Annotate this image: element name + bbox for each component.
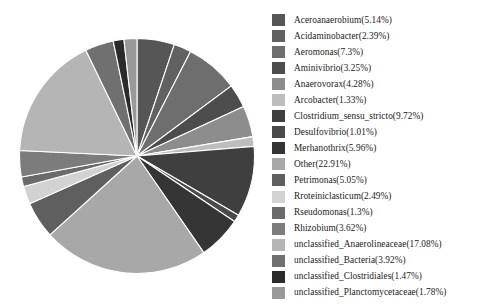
legend-item[interactable]: Rhizobium(3.62%) — [272, 221, 477, 237]
legend-color-swatch — [272, 207, 285, 219]
legend-color-swatch — [272, 191, 285, 203]
legend-color-swatch — [272, 126, 285, 138]
legend-item-label: Acidaminobacter(2.39%) — [294, 31, 389, 42]
legend-item-label: Anaerovorax(4.28%) — [294, 79, 374, 90]
legend-item[interactable]: Merhanothrix(5.96%) — [272, 140, 477, 156]
legend-color-swatch — [272, 223, 285, 235]
legend-item[interactable]: Acidaminobacter(2.39%) — [272, 28, 477, 44]
chart-legend: Aceroanaerobium(5.14%)Acidaminobacter(2.… — [272, 12, 477, 301]
legend-item[interactable]: unclassified_Anaerolineaceae(17.08%) — [272, 237, 477, 253]
legend-item[interactable]: Desulfovibrio(1.01%) — [272, 124, 477, 140]
legend-color-swatch — [272, 46, 285, 58]
legend-color-swatch — [272, 62, 285, 74]
legend-item[interactable]: Aeromonas(7.3%) — [272, 44, 477, 60]
legend-item-label: Clostridium_sensu_stricto(9.72%) — [294, 111, 423, 122]
legend-color-swatch — [272, 287, 285, 299]
legend-item[interactable]: Aceroanaerobium(5.14%) — [272, 12, 477, 28]
pie-slice-group — [19, 39, 254, 274]
legend-item[interactable]: unclassified_Planctomycetaceae(1.78%) — [272, 285, 477, 301]
legend-item-label: Aminivibrio(3.25%) — [294, 63, 371, 74]
legend-color-swatch — [272, 255, 285, 267]
legend-color-swatch — [272, 14, 285, 26]
pie-chart-plot-area — [19, 38, 255, 274]
legend-item-label: unclassified_Clostridiales(1.47%) — [294, 271, 422, 282]
legend-color-swatch — [272, 158, 285, 170]
legend-item-label: Rseudomonas(1.3%) — [294, 207, 373, 218]
legend-item[interactable]: Anaerovorax(4.28%) — [272, 76, 477, 92]
legend-item-label: Arcobacter(1.33%) — [294, 95, 366, 106]
legend-item[interactable]: Clostridium_sensu_stricto(9.72%) — [272, 108, 477, 124]
legend-color-swatch — [272, 271, 285, 283]
legend-item-label: Desulfovibrio(1.01%) — [294, 127, 377, 138]
legend-item-label: Aeromonas(7.3%) — [294, 47, 363, 58]
legend-item[interactable]: unclassified_Bacteria(3.92%) — [272, 253, 477, 269]
legend-item[interactable]: unclassified_Clostridiales(1.47%) — [272, 269, 477, 285]
legend-item-label: Aceroanaerobium(5.14%) — [294, 15, 392, 26]
legend-color-swatch — [272, 174, 285, 186]
legend-color-swatch — [272, 30, 285, 42]
legend-color-swatch — [272, 94, 285, 106]
legend-item-label: unclassified_Bacteria(3.92%) — [294, 255, 406, 266]
legend-item[interactable]: Rroteiniclasticum(2.49%) — [272, 189, 477, 205]
legend-item-label: Petrimonas(5.05%) — [294, 175, 367, 186]
legend-color-swatch — [272, 78, 285, 90]
legend-item-label: Merhanothrix(5.96%) — [294, 143, 376, 154]
legend-color-swatch — [272, 110, 285, 122]
legend-item[interactable]: Rseudomonas(1.3%) — [272, 205, 477, 221]
legend-item[interactable]: Petrimonas(5.05%) — [272, 172, 477, 188]
legend-item-label: unclassified_Planctomycetaceae(1.78%) — [294, 287, 446, 298]
legend-color-swatch — [272, 142, 285, 154]
legend-item[interactable]: Aminivibrio(3.25%) — [272, 60, 477, 76]
legend-item-label: Other(22.91%) — [294, 159, 351, 170]
legend-item[interactable]: Arcobacter(1.33%) — [272, 92, 477, 108]
pie-chart-svg — [19, 38, 255, 274]
pie-chart-figure: Aceroanaerobium(5.14%)Acidaminobacter(2.… — [0, 0, 477, 308]
legend-color-swatch — [272, 239, 285, 251]
legend-item[interactable]: Other(22.91%) — [272, 156, 477, 172]
legend-item-label: unclassified_Anaerolineaceae(17.08%) — [294, 239, 442, 250]
legend-item-label: Rroteiniclasticum(2.49%) — [294, 191, 392, 202]
legend-item-label: Rhizobium(3.62%) — [294, 223, 366, 234]
